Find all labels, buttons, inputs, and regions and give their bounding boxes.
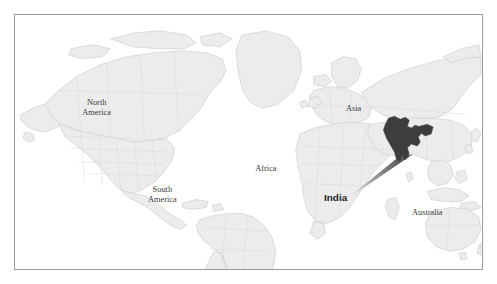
- label-south-america-line2: America: [148, 195, 177, 204]
- map-frame-border: North America South America Africa Asia …: [14, 14, 483, 270]
- label-africa: Africa: [255, 164, 277, 173]
- label-south-america-line1: South: [153, 185, 173, 194]
- label-australia: Australia: [412, 208, 443, 217]
- label-north-america-line2: America: [82, 108, 111, 117]
- label-north-america-line1: North: [87, 98, 107, 107]
- label-india: India: [324, 192, 348, 203]
- label-asia: Asia: [346, 104, 362, 113]
- world-locator-map-figure: North America South America Africa Asia …: [0, 0, 497, 284]
- world-map-svg: North America South America Africa Asia …: [15, 15, 482, 269]
